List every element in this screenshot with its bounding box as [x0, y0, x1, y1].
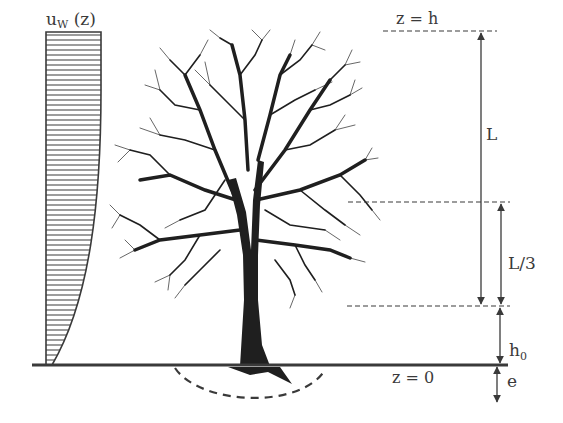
top-level-label: z = h — [396, 9, 438, 28]
dimension-L3-label: L/3 — [508, 253, 536, 273]
ground-level-label: z = 0 — [392, 368, 434, 387]
tree-silhouette — [110, 30, 380, 384]
dimension-L-label: L — [486, 124, 497, 144]
wind-profile-hatching — [46, 35, 102, 360]
tree-wind-diagram: uW (z) — [0, 0, 563, 423]
dimension-h0-label: h0 — [509, 340, 527, 363]
wind-profile-label: uW (z) — [46, 9, 96, 31]
dimension-e-label: e — [507, 371, 517, 391]
wind-profile: uW (z) — [46, 9, 102, 365]
